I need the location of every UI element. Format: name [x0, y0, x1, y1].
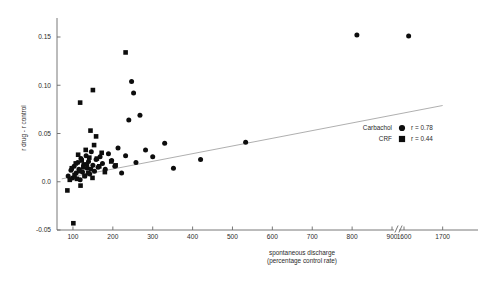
data-point-crf [92, 143, 97, 148]
data-point-carbachol [137, 113, 142, 118]
y-tick-label: 0.0 [42, 178, 51, 185]
data-point-crf [95, 156, 100, 161]
data-point-crf [91, 88, 96, 93]
data-point-crf [79, 158, 84, 163]
data-point-carbachol [116, 145, 121, 150]
data-point-crf [83, 148, 88, 153]
data-point-crf [77, 169, 82, 174]
scatter-plot-figure: 10020030040050060070080090016001700 -0.0… [0, 0, 489, 282]
x-tick-label: 1600 [397, 233, 412, 240]
data-point-crf [75, 177, 80, 182]
data-point-crf [76, 152, 81, 157]
legend-circle-icon [399, 125, 405, 131]
data-point-carbachol [406, 34, 411, 39]
x-axis-title: spontaneous discharge (percentage contro… [267, 249, 337, 265]
data-point-crf [71, 221, 76, 226]
axis-break-slash [399, 226, 402, 233]
data-point-crf [73, 161, 78, 166]
x-axis-ticks: 10020030040050060070080090016001700 [67, 227, 450, 241]
x-tick-label: 600 [267, 233, 278, 240]
x-axis-title-line1: spontaneous discharge [269, 249, 336, 257]
data-point-carbachol [131, 90, 136, 95]
data-point-crf [78, 183, 83, 188]
data-point-carbachol [150, 154, 155, 159]
data-point-carbachol [243, 140, 248, 145]
data-point-crf [85, 162, 90, 167]
data-point-crf [69, 166, 74, 171]
data-point-carbachol [143, 147, 148, 152]
data-point-carbachol [119, 171, 124, 176]
data-series-crf [65, 50, 128, 225]
data-point-crf [90, 176, 95, 181]
data-point-crf [67, 178, 72, 183]
data-point-carbachol [129, 79, 134, 84]
x-tick-label: 400 [187, 233, 198, 240]
data-point-crf [123, 50, 128, 55]
y-tick-label: 0.15 [38, 33, 51, 40]
data-point-crf [65, 188, 70, 193]
data-series-carbachol [66, 33, 411, 183]
y-tick-label: 0.10 [38, 82, 51, 89]
legend-square-icon [399, 136, 405, 142]
data-point-crf [78, 100, 83, 105]
x-tick-label: 200 [107, 233, 118, 240]
x-tick-label: 100 [67, 233, 78, 240]
data-point-carbachol [133, 160, 138, 165]
axis-break-slash [395, 226, 398, 233]
data-point-carbachol [198, 157, 203, 162]
data-point-crf [94, 134, 99, 139]
plot-canvas: 10020030040050060070080090016001700 -0.0… [0, 0, 489, 282]
data-point-crf [103, 170, 108, 175]
x-tick-label: 300 [147, 233, 158, 240]
data-point-crf [87, 155, 92, 160]
y-tick-label: 0.05 [38, 130, 51, 137]
legend-label-crf: CRF [379, 135, 392, 142]
chart-legend: Carbacholr = 0.78CRFr = 0.44 [363, 124, 433, 142]
data-point-crf [97, 164, 102, 169]
y-axis-title: r drug - r control [20, 105, 28, 150]
x-axis-break-icon [395, 226, 402, 233]
legend-label-carbachol: Carbachol [363, 124, 392, 131]
data-point-crf [89, 167, 94, 172]
data-point-crf [109, 159, 114, 164]
data-point-carbachol [354, 33, 359, 38]
x-tick-label: 700 [307, 233, 318, 240]
legend-correlation-carbachol: r = 0.78 [411, 124, 433, 131]
x-tick-label: 1700 [435, 233, 450, 240]
data-point-carbachol [123, 153, 128, 158]
legend-correlation-crf: r = 0.44 [411, 135, 433, 142]
data-point-crf [88, 128, 93, 133]
data-point-carbachol [106, 151, 111, 156]
x-tick-label: 800 [347, 233, 358, 240]
data-point-carbachol [171, 166, 176, 171]
x-axis-title-line2: (percentage control rate) [267, 257, 337, 265]
y-tick-label: -0.05 [36, 226, 51, 233]
data-point-carbachol [162, 141, 167, 146]
data-point-crf [99, 151, 104, 156]
y-axis-title-text: r drug - r control [20, 105, 28, 150]
data-point-crf [113, 163, 118, 168]
x-tick-label: 500 [227, 233, 238, 240]
data-point-carbachol [89, 149, 94, 154]
data-point-carbachol [126, 117, 131, 122]
